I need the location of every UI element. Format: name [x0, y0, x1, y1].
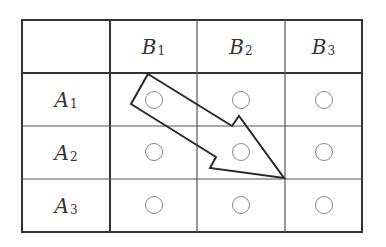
cross-table-diagram: B1 B2 B3 A1 A2 A3 — [0, 0, 386, 247]
diagonal-arrow-icon — [0, 0, 386, 247]
